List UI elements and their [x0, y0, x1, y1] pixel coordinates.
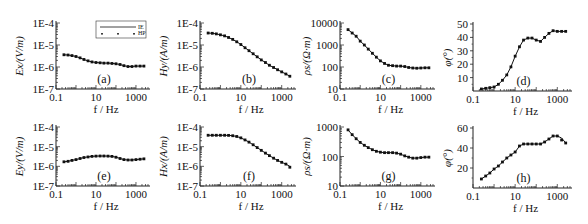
x-tick-label: 10 — [510, 93, 522, 105]
data-point-HP — [548, 32, 551, 35]
data-point-HP — [480, 178, 483, 181]
data-point-HP — [484, 87, 487, 90]
data-point-HP — [351, 133, 354, 136]
data-point-HP — [355, 137, 358, 140]
data-point-HP — [411, 157, 414, 160]
y-tick-label: 30 — [457, 45, 469, 57]
data-point-HP — [351, 32, 354, 35]
data-point-HP — [526, 143, 529, 146]
y-tick-label: 100 — [322, 151, 339, 163]
y-axis-label: φ(°) — [441, 149, 454, 167]
panel-label: (h) — [517, 171, 531, 185]
panel-label: (a) — [97, 72, 110, 86]
data-point-HP — [518, 45, 521, 48]
data-point-HP — [497, 165, 500, 168]
data-point-HP — [347, 28, 350, 31]
data-point-HP — [522, 39, 525, 42]
panel-label: (d) — [517, 74, 531, 88]
y-tick-label: 1E-7 — [177, 83, 199, 95]
data-point-HP — [260, 59, 263, 62]
data-point-HP — [244, 139, 247, 142]
subplot-h: 0.1101000204060f / Hzφ(°)(h) — [441, 122, 572, 214]
data-point-HP — [223, 134, 226, 137]
y-tick-label: 1E-4 — [33, 121, 55, 133]
data-point-HP — [99, 61, 102, 64]
data-point-HP — [107, 155, 110, 158]
data-point-HP — [505, 74, 508, 77]
data-point-HP — [535, 39, 538, 42]
y-tick-label: 20 — [457, 58, 469, 70]
data-point-HP — [239, 43, 242, 46]
data-point-HP — [91, 155, 94, 158]
data-point-HP — [522, 143, 525, 146]
data-point-HP — [280, 70, 283, 73]
subplot-g: 0.1101000101001000f / Hzρs/(Ω·m)(g) — [300, 121, 435, 212]
y-tick-label: 100 — [322, 61, 339, 73]
y-tick-label: 1E-4 — [33, 17, 55, 29]
data-point-HP — [399, 153, 402, 156]
x-tick-label: 0.1 — [466, 190, 480, 202]
x-tick-label: 10 — [90, 188, 102, 200]
data-point-HP — [215, 32, 218, 35]
data-point-HP — [123, 64, 126, 67]
y-tick-label: 1E-6 — [177, 61, 199, 73]
data-point-HP — [379, 151, 382, 154]
data-point-HP — [548, 138, 551, 141]
legend: IEHP — [96, 21, 146, 38]
data-point-HP — [539, 40, 542, 43]
x-tick-label: 1000 — [271, 91, 294, 103]
data-point-HP — [111, 62, 114, 65]
data-point-HP — [67, 160, 70, 163]
data-point-HP — [139, 158, 142, 161]
data-point-HP — [427, 156, 430, 159]
data-point-HP — [395, 152, 398, 155]
data-point-HP — [501, 79, 504, 82]
data-point-HP — [514, 55, 517, 58]
data-point-HP — [543, 36, 546, 39]
x-tick-label: 10 — [90, 91, 102, 103]
data-point-HP — [115, 62, 118, 65]
panel-label: (e) — [97, 169, 110, 183]
legend-point-sample — [117, 33, 119, 35]
data-point-HP — [367, 146, 370, 149]
data-point-HP — [75, 55, 78, 58]
data-point-HP — [91, 61, 94, 64]
data-point-HP — [556, 135, 559, 138]
data-point-HP — [115, 156, 118, 159]
data-point-HP — [488, 86, 491, 89]
y-tick-label: 1E-5 — [33, 141, 55, 153]
data-point-HP — [407, 156, 410, 159]
data-point-HP — [127, 65, 130, 68]
subplot-c: 0.110100010100100010000f / Hzρs/(Ω·m)(c) — [300, 17, 435, 115]
x-tick-label: 1000 — [125, 91, 148, 103]
y-tick-label: 60 — [457, 122, 469, 134]
x-tick-label: 10 — [375, 188, 387, 200]
data-point-HP — [387, 151, 390, 154]
data-point-HP — [131, 65, 134, 68]
data-point-HP — [371, 52, 374, 55]
data-point-HP — [219, 33, 222, 36]
data-point-HP — [276, 159, 279, 162]
data-point-HP — [63, 160, 66, 163]
subplot-f: 0.11010001E-71E-61E-51E-4f / HzHx/(A/m)(… — [157, 121, 296, 212]
data-point-HP — [501, 161, 504, 164]
y-axis-label: Hy/(A/m) — [157, 35, 170, 77]
legend-point-sample — [133, 33, 135, 35]
data-point-HP — [211, 134, 214, 137]
data-point-HP — [564, 142, 567, 145]
data-point-HP — [239, 136, 242, 139]
data-point-HP — [276, 68, 279, 71]
data-point-HP — [552, 29, 555, 32]
y-tick-label: 1E-5 — [177, 141, 199, 153]
y-tick-label: 1E-5 — [33, 39, 55, 51]
data-point-HP — [383, 151, 386, 154]
data-point-HP — [252, 143, 255, 146]
data-point-HP — [248, 141, 251, 144]
data-point-HP — [564, 30, 567, 33]
data-point-HP — [355, 35, 358, 38]
x-tick-label: 10 — [375, 91, 387, 103]
x-tick-label: 1000 — [125, 188, 148, 200]
x-axis-label: f / Hz — [93, 103, 118, 115]
data-point-HP — [227, 134, 230, 137]
legend-point-sample — [101, 33, 103, 35]
